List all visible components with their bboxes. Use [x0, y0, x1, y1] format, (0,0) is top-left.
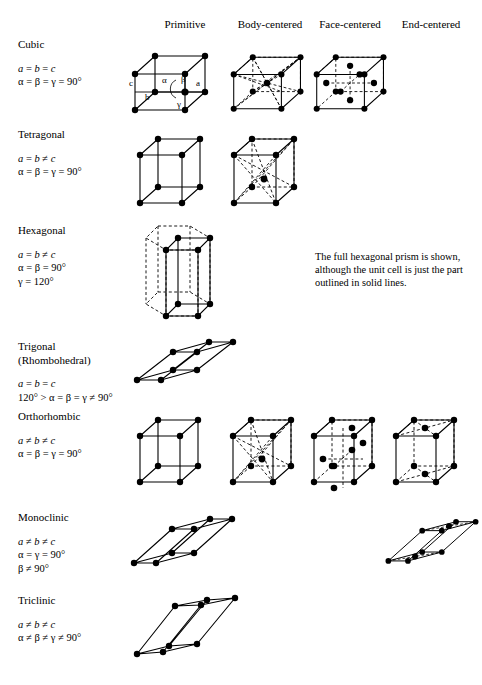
- system-name-trigonal: Trigonal: [18, 340, 130, 354]
- note-line: outlined in solid lines.: [315, 276, 475, 289]
- lattice-point: [385, 519, 478, 564]
- system-name-trigonal-alt: (Rhombohedral): [18, 354, 130, 368]
- lattice-point: [393, 417, 457, 485]
- param-line: a ≠ b ≠ c: [18, 535, 130, 549]
- lattice-point-end-center: [422, 471, 429, 478]
- system-params-orthorhombic: a ≠ b ≠ c α = β = γ = 90°: [18, 434, 130, 461]
- lattice-trigonal-primitive: [131, 338, 239, 394]
- row-label-triclinic: Triclinic a ≠ b ≠ c α ≠ β ≠ γ ≠ 90°: [18, 594, 130, 645]
- lattice-point-body-center: [259, 456, 266, 463]
- row-label-cubic: Cubic a = b = c α = β = γ = 90°: [18, 38, 130, 89]
- param-line: α = β = γ = 90°: [18, 447, 130, 461]
- axis-label-b: b: [145, 92, 150, 102]
- param-line: α = β = γ = 90°: [18, 75, 130, 89]
- param-line: a = b ≠ c: [18, 248, 130, 262]
- lattice-cubic-body-centered: [228, 50, 310, 116]
- lattice-point-face-center: [371, 80, 377, 86]
- lattice-point: [137, 417, 201, 485]
- hexagonal-note: The full hexagonal prism is shown, altho…: [315, 250, 475, 290]
- row-label-tetragonal: Tetragonal a = b ≠ c α = β = γ = 90°: [18, 128, 130, 179]
- lattice-orthorhombic-primitive: [134, 414, 210, 492]
- angle-label-beta: β: [181, 74, 186, 84]
- lattice-cubic-face-centered: [311, 50, 393, 116]
- lattice-triclinic-primitive: [131, 592, 241, 662]
- lattice-point-end-center: [422, 425, 429, 432]
- row-label-orthorhombic: Orthorhombic a ≠ b ≠ c α = β = γ = 90°: [18, 410, 130, 461]
- lattice-orthorhombic-end-centered: [390, 414, 466, 492]
- lattice-orthorhombic-body-centered: [227, 414, 303, 492]
- lattice-point-end-center: [412, 554, 418, 560]
- lattice-point-end-center: [446, 523, 452, 529]
- system-params-hexagonal: a = b ≠ c α = β = 90° γ = 120°: [18, 248, 130, 289]
- lattice-monoclinic-primitive: [128, 513, 238, 575]
- column-header-primitive: Primitive: [140, 18, 230, 31]
- param-line: α = β = 90°: [18, 261, 130, 275]
- lattice-point-face-center: [356, 71, 362, 77]
- lattice-tetragonal-primitive: [134, 133, 214, 211]
- param-line: α = β = γ = 90°: [18, 165, 130, 179]
- param-line: α ≠ β ≠ γ ≠ 90°: [18, 631, 130, 645]
- lattice-point: [131, 516, 235, 566]
- system-params-trigonal: a = b = c 120° > α = β = γ ≠ 90°: [18, 377, 130, 404]
- lattice-point: [137, 136, 203, 206]
- lattice-point-face-center: [349, 447, 356, 454]
- param-line: a ≠ b ≠ c: [18, 618, 130, 632]
- lattice-point-face-center: [331, 463, 338, 470]
- lattice-point-face-center: [331, 485, 338, 492]
- param-line: a = b = c: [18, 377, 130, 391]
- param-line: a ≠ b ≠ c: [18, 434, 130, 448]
- note-line: although the unit cell is just the part: [315, 263, 475, 276]
- system-params-triclinic: a ≠ b ≠ c α ≠ β ≠ γ ≠ 90°: [18, 618, 130, 645]
- angle-label-gamma: γ: [176, 99, 181, 109]
- lattice-monoclinic-end-centered: [383, 513, 481, 575]
- lattice-point-face-center: [320, 456, 327, 463]
- lattice-point-face-center: [347, 97, 353, 103]
- system-name-monoclinic: Monoclinic: [18, 511, 130, 525]
- lattice-point-face-center: [337, 88, 343, 94]
- system-name-hexagonal: Hexagonal: [18, 224, 130, 238]
- system-params-monoclinic: a ≠ b ≠ c α = γ = 90° β ≠ 90°: [18, 535, 130, 576]
- lattice-point-face-center: [349, 425, 356, 432]
- lattice-tetragonal-body-centered: [228, 133, 308, 211]
- row-label-hexagonal: Hexagonal a = b ≠ c α = β = 90° γ = 120°: [18, 224, 130, 288]
- lattice-point-face-center: [360, 440, 367, 447]
- axis-label-c: c: [129, 78, 133, 88]
- system-name-triclinic: Triclinic: [18, 594, 130, 608]
- lattice-orthorhombic-face-centered: [308, 414, 384, 492]
- lattice-point: [163, 235, 213, 319]
- lattice-point: [311, 417, 375, 492]
- column-header-end-centered: End-centered: [385, 18, 477, 31]
- row-label-monoclinic: Monoclinic a ≠ b ≠ c α = γ = 90° β ≠ 90°: [18, 511, 130, 575]
- param-line: a = b ≠ c: [18, 152, 130, 166]
- lattice-point-body-center: [261, 176, 268, 183]
- param-line: α = γ = 90°: [18, 548, 130, 562]
- note-line: The full hexagonal prism is shown,: [315, 250, 475, 263]
- system-params-tetragonal: a = b ≠ c α = β = γ = 90°: [18, 152, 130, 179]
- lattice-cubic-primitive: c b a α β γ: [129, 50, 215, 116]
- param-line: γ = 120°: [18, 275, 130, 289]
- angle-label-alpha: α: [162, 75, 167, 85]
- param-line: a = b = c: [18, 62, 130, 76]
- lattice-point-face-center: [347, 63, 353, 69]
- row-label-trigonal: Trigonal (Rhombohedral) a = b = c 120° >…: [18, 340, 130, 404]
- system-name-orthorhombic: Orthorhombic: [18, 410, 130, 424]
- system-name-cubic: Cubic: [18, 38, 130, 52]
- param-line: 120° > α = β = γ ≠ 90°: [18, 391, 130, 405]
- system-name-tetragonal: Tetragonal: [18, 128, 130, 142]
- bravais-lattice-figure: Primitive Body-centered Face-centered En…: [0, 0, 482, 685]
- lattice-point-body-center: [264, 80, 270, 86]
- column-header-face-centered: Face-centered: [305, 18, 395, 31]
- axis-label-a: a: [196, 78, 200, 88]
- lattice-point-face-center: [323, 80, 329, 86]
- system-params-cubic: a = b = c α = β = γ = 90°: [18, 62, 130, 89]
- param-line: β ≠ 90°: [18, 562, 130, 576]
- lattice-hexagonal-primitive: [128, 222, 234, 328]
- column-header-body-centered: Body-centered: [222, 18, 318, 31]
